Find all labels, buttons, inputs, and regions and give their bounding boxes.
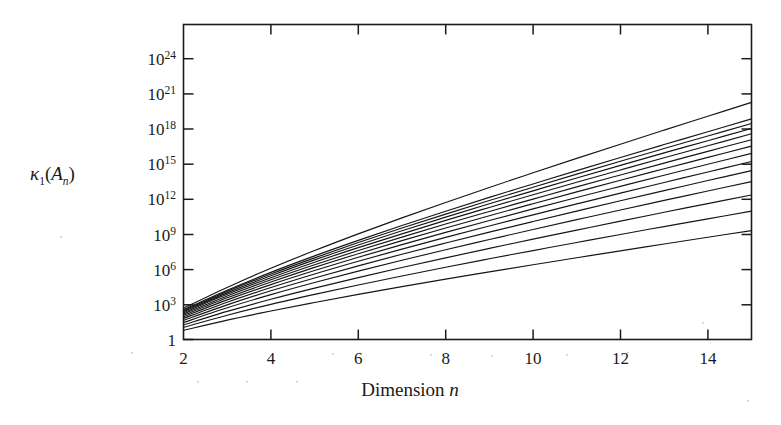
y-tick-exponent-18: 18 [165,119,177,131]
y-tick-mantissa-24: 10 [148,50,165,69]
curve-11 [184,128,752,311]
x-axis-tick-labels: 2 4 6 8 10 12 14 [179,349,717,368]
curve-4 [184,182,752,323]
x-tick-label-2: 2 [179,349,188,368]
y-axis-ticks [184,59,752,340]
y-tick-exponent-12: 12 [165,189,177,201]
x-tick-label-8: 8 [441,349,450,368]
x-tick-label-12: 12 [612,349,629,368]
curve-5 [184,171,752,321]
x-axis-title-word: Dimension [361,379,445,400]
x-axis-ticks [271,25,708,340]
condition-number-chart: 1024 1021 1018 1015 1012 109 106 103 1 2… [0,0,781,425]
y-axis-title-close-paren: ) [69,163,75,185]
y-tick-label-1: 1 [168,331,177,350]
y-tick-exponent-9: 9 [170,225,176,237]
y-tick-mantissa-9: 10 [153,226,170,245]
x-tick-label-10: 10 [525,349,542,368]
y-axis-title-arg: A [49,163,63,184]
curve-8 [184,146,752,315]
y-tick-exponent-21: 21 [165,84,177,96]
y-tick-mantissa-21: 10 [148,85,165,104]
x-axis-title: Dimension n [361,379,459,400]
x-tick-label-14: 14 [699,349,717,368]
svg-text:1018: 1018 [148,119,177,139]
svg-text:1024: 1024 [148,49,177,69]
y-tick-mantissa-18: 10 [148,120,165,139]
svg-text:106: 106 [153,260,176,280]
y-tick-exponent-3: 3 [170,295,176,307]
x-axis-title-symbol: n [449,379,459,400]
y-tick-exponent-24: 24 [165,49,177,61]
svg-text:109: 109 [153,225,176,245]
y-tick-mantissa-6: 10 [153,261,170,280]
x-tick-label-4: 4 [267,349,276,368]
svg-text:1015: 1015 [148,154,177,174]
x-tick-label-6: 6 [354,349,363,368]
y-tick-mantissa-12: 10 [148,190,165,209]
y-axis-title: κ1(An) [30,163,75,187]
curve-7 [184,153,752,316]
svg-text:1021: 1021 [148,84,177,104]
y-tick-mantissa-15: 10 [148,155,165,174]
y-tick-exponent-15: 15 [165,154,177,166]
y-tick-exponent-6: 6 [170,260,176,272]
svg-text:1012: 1012 [148,189,177,209]
curve-family [184,102,752,330]
y-axis-tick-labels: 1024 1021 1018 1015 1012 109 106 103 1 [148,49,177,350]
y-tick-mantissa-3: 10 [153,296,170,315]
svg-text:103: 103 [153,295,176,315]
